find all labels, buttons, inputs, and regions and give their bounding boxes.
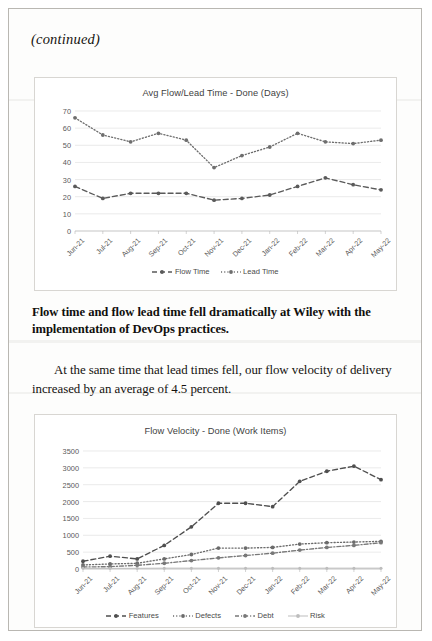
data-point [271,551,275,555]
data-point [298,548,302,552]
data-point [157,191,161,195]
chart-avg-flow-lead-time: Avg Flow/Lead Time - Done (Days) 0102030… [34,77,397,291]
legend-label: Defects [195,611,221,620]
x-tick-label: Sep-21 [139,236,169,266]
x-tick-label: Sep-21 [145,574,175,604]
data-point [325,541,329,545]
legend-swatch-icon [235,612,255,620]
x-tick-label: Feb-22 [278,236,308,266]
y-tick-label: 3000 [35,463,79,472]
page-content: (continued) Avg Flow/Lead Time - Done (D… [9,9,421,630]
series-line-lead-time [75,118,381,168]
legend-item-debt: Debt [235,611,274,620]
data-point [325,567,328,570]
data-point [379,541,383,545]
y-tick-label: 0 [35,565,79,574]
legend-item-features: Features [106,611,158,620]
y-tick-label: 70 [35,107,71,116]
data-point [325,469,329,473]
data-point [351,183,355,187]
y-tick-label: 30 [35,175,71,184]
bold-paragraph: Flow time and flow lead time fell dramat… [32,304,392,337]
data-point [271,567,274,570]
data-point [298,567,301,570]
x-tick-label: Nov-21 [199,574,229,604]
data-point [323,140,327,144]
legend-swatch-icon [152,268,172,276]
data-point [157,131,161,135]
data-point [244,554,248,558]
data-point [325,546,329,550]
legend-label: Features [129,611,159,620]
x-tick-label: Nov-21 [195,236,225,266]
data-point [217,556,221,560]
chart1-plot-area [75,111,381,231]
chart-flow-velocity: Flow Velocity - Done (Work Items) 050010… [34,414,397,628]
data-point [184,191,188,195]
x-tick-label: Oct-21 [172,574,202,604]
data-point [352,567,355,570]
x-tick-label: Aug-21 [112,236,142,266]
y-tick-label: 0 [35,227,71,236]
data-point [271,505,275,509]
x-tick-label: Mar-22 [306,236,336,266]
y-tick-label: 1500 [35,514,79,523]
data-point [268,145,272,149]
data-point [190,567,193,570]
legend-label: Lead Time [243,267,278,276]
data-point [352,544,356,548]
y-tick-label: 1000 [35,531,79,540]
x-tick-label: Dec-21 [226,574,256,604]
y-tick-label: 60 [35,124,71,133]
x-tick-label: May-22 [362,574,392,604]
data-point [108,554,112,558]
data-point [101,133,105,137]
x-tick-label: Jun-21 [56,236,86,266]
y-tick-label: 50 [35,141,71,150]
chart2-plot-area [83,451,381,569]
y-tick-label: 2000 [35,497,79,506]
y-tick-label: 40 [35,158,71,167]
data-point [240,197,244,201]
x-tick-label: Feb-22 [281,574,311,604]
data-point [217,546,221,550]
data-point [296,185,300,189]
data-point [189,559,193,563]
x-tick-label: Jan-22 [254,574,284,604]
x-tick-label: Aug-21 [118,574,148,604]
y-tick-label: 3500 [35,447,79,456]
data-point [162,544,166,548]
data-point [73,185,77,189]
data-point [380,567,383,570]
data-point [212,166,216,170]
plot2-svg [83,451,381,569]
x-tick-label: Oct-21 [167,236,197,266]
data-point [298,479,302,483]
continued-label: (continued) [31,31,100,48]
chart2-legend: FeaturesDefectsDebtRisk [35,611,396,620]
data-point [352,464,356,468]
data-point [323,176,327,180]
data-point [73,116,77,120]
data-point [136,567,139,570]
data-point [351,142,355,146]
x-tick-label: Apr-22 [335,574,365,604]
data-point [162,561,166,565]
data-point [212,198,216,202]
chart2-title: Flow Velocity - Done (Work Items) [35,426,396,436]
y-tick-label: 2500 [35,480,79,489]
data-point [129,140,133,144]
x-tick-label: Dec-21 [223,236,253,266]
data-point [298,542,302,546]
data-point [268,193,272,197]
data-point [240,154,244,158]
data-point [244,567,247,570]
data-point [129,191,133,195]
x-tick-label: Jan-22 [251,236,281,266]
chart1-title: Avg Flow/Lead Time - Done (Days) [35,88,396,98]
data-point [379,188,383,192]
data-point [244,501,248,505]
legend-item-defects: Defects [173,611,221,620]
legend-item-risk: Risk [288,611,325,620]
y-tick-label: 500 [35,548,79,557]
